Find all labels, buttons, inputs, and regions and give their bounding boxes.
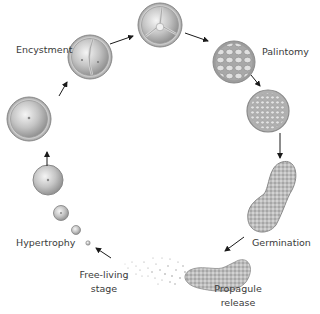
label-propagule-release: Propagule release [200,282,276,310]
arrow-free-living [96,248,111,258]
germination-cell [248,161,296,232]
arrow-germination [225,237,244,251]
arrow-encystment [110,36,133,44]
hypertrophy-cell-3 [33,165,63,195]
label-free-living-line2: stage [74,282,134,296]
hypertrophy-cell-1 [72,226,81,235]
palintomy-dense-cell [247,90,289,132]
label-free-living-stage: Free-living stage [74,268,134,296]
arrow-division [185,33,208,41]
label-free-living-line1: Free-living [74,268,134,282]
division-cell [138,3,182,47]
released-propagules [125,258,189,285]
label-hypertrophy: Hypertrophy [16,236,75,250]
palintomy-cell [213,41,255,83]
label-palintomy: Palintomy [262,45,309,59]
free-living-cell [86,241,90,245]
hypertrophy-cell-4 [7,97,51,141]
encystment-cell [68,35,112,79]
arrow-palintomy [251,75,260,86]
label-germination: Germination [252,236,311,250]
label-propagule-line2: release [200,296,276,310]
arrow-hypertrophy-2 [59,82,67,96]
label-propagule-line1: Propagule [200,282,276,296]
label-encystment: Encystment [16,43,72,57]
hypertrophy-cell-2 [54,206,69,221]
